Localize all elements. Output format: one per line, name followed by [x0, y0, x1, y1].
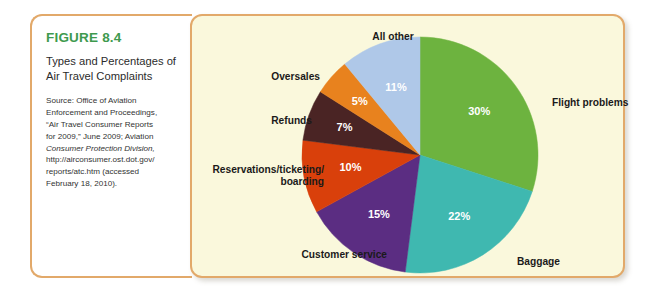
- pie-slice-label-line: Reservations/ticketing/: [192, 164, 324, 176]
- figure-source-line: Source: Office of Aviation: [46, 96, 137, 105]
- pie-chart-svg: 30%22%15%10%7%5%11%: [192, 16, 627, 280]
- figure-caption-panel: FIGURE 8.4 Types and Percentages of Air …: [30, 14, 192, 278]
- figure-source-line: reports/atc.htm (accessed: [46, 167, 139, 176]
- pie-slice-value: 10%: [339, 161, 361, 173]
- pie-chart: 30%22%15%10%7%5%11% Flight problemsBagga…: [192, 16, 627, 280]
- figure-source-line: February 18, 2010).: [46, 179, 117, 188]
- pie-slice-label: Oversales: [192, 71, 320, 83]
- pie-slice-label-line: Flight problems: [552, 97, 628, 109]
- pie-slice-label-line: Refunds: [192, 115, 312, 127]
- pie-slice-value: 7%: [337, 121, 353, 133]
- figure-source-note: Source: Office of AviationEnforcement an…: [46, 95, 182, 190]
- pie-slice-value: 11%: [385, 81, 407, 93]
- chart-panel: 30%22%15%10%7%5%11% Flight problemsBagga…: [190, 14, 625, 278]
- figure-source-line: Consumer Protection Division,: [46, 144, 155, 153]
- pie-slice-label: Reservations/ticketing/boarding: [192, 164, 324, 189]
- pie-slice-label: Flight problems: [552, 97, 628, 109]
- figure-source-line: “Air Travel Consumer Reports: [46, 120, 153, 129]
- pie-slice-label-line: All other: [333, 31, 453, 43]
- pie-slice-value: 15%: [368, 208, 390, 220]
- figure-source-line: http://airconsumer.ost.dot.gov/: [46, 155, 154, 164]
- figure-number: FIGURE 8.4: [46, 30, 182, 45]
- pie-slice-label: Customer service: [192, 249, 387, 261]
- figure-source-line: for 2009,” June 2009; Aviation: [46, 132, 153, 141]
- pie-slice-value: 22%: [448, 210, 470, 222]
- figure-title: Types and Percentages of Air Travel Comp…: [46, 54, 182, 84]
- pie-slice-label: Refunds: [192, 115, 312, 127]
- pie-slice-label-line: boarding: [192, 176, 324, 188]
- pie-slice-value: 5%: [352, 95, 368, 107]
- figure-source-line: Enforcement and Proceedings,: [46, 108, 157, 117]
- pie-slice-label-line: Oversales: [192, 71, 320, 83]
- pie-slice-label-line: Customer service: [192, 249, 387, 261]
- pie-slice-value: 30%: [468, 105, 490, 117]
- figure-container: FIGURE 8.4 Types and Percentages of Air …: [0, 0, 651, 304]
- pie-slice-label: All other: [333, 31, 453, 43]
